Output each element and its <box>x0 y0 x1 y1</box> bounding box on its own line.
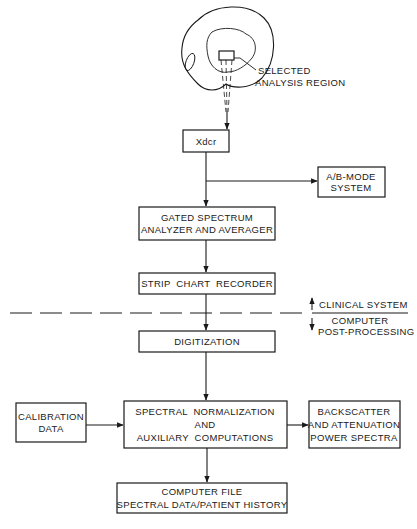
node-computer-file: COMPUTER FILE SPECTRAL DATA/PATIENT HIST… <box>117 483 288 513</box>
normalization-label-line1: SPECTRAL NORMALIZATION <box>135 406 274 417</box>
computer-label: COMPUTER <box>332 315 389 326</box>
ab-mode-label-line1: A/B-MODE <box>326 171 375 182</box>
gated-label-line2: ANALYZER AND AVERAGER <box>141 224 273 235</box>
gated-label-line1: GATED SPECTRUM <box>161 212 253 223</box>
node-calibration-data: CALIBRATION DATA <box>16 403 86 442</box>
backscatter-label-line3: POWER SPECTRA <box>310 432 398 443</box>
analysis-region-box <box>219 51 234 60</box>
calibration-label-line2: DATA <box>38 423 63 434</box>
node-spectral-normalization: SPECTRAL NORMALIZATION AND AUXILIARY COM… <box>124 401 287 448</box>
node-xdcr: Xdcr <box>183 130 229 152</box>
calibration-label-line1: CALIBRATION <box>18 411 84 422</box>
backscatter-label-line1: BACKSCATTER <box>318 406 391 417</box>
node-gated-spectrum-analyzer: GATED SPECTRUM ANALYZER AND AVERAGER <box>139 207 275 240</box>
strip-label: STRIP CHART RECORDER <box>141 278 273 289</box>
beam-lines-icon <box>221 60 232 112</box>
flow-diagram: SELECTED ANALYSIS REGION Xdcr A/B-MODE S… <box>0 0 417 529</box>
node-strip-chart-recorder: STRIP CHART RECORDER <box>139 273 275 294</box>
organ-outline-icon <box>207 28 256 72</box>
kidney-outline-icon <box>183 52 197 72</box>
xdcr-label: Xdcr <box>196 136 217 147</box>
backscatter-label-line2: AND ATTENUATION <box>308 419 400 430</box>
region-label-line1: SELECTED <box>258 65 311 76</box>
computer-file-label-line1: COMPUTER FILE <box>162 486 243 497</box>
computer-file-label-line2: SPECTRAL DATA/PATIENT HISTORY <box>117 499 288 510</box>
anatomy-illustration: SELECTED ANALYSIS REGION <box>182 7 346 112</box>
clinical-system-label: CLINICAL SYSTEM <box>319 299 408 310</box>
post-processing-label: POST-PROCESSING <box>318 326 414 337</box>
region-leader-line <box>234 58 256 70</box>
digitization-label: DIGITIZATION <box>174 336 240 347</box>
normalization-label-line2: AND <box>195 419 216 430</box>
region-label-line2: ANALYSIS REGION <box>255 77 345 88</box>
normalization-label-line3: AUXILIARY COMPUTATIONS <box>137 432 274 443</box>
ab-mode-label-line2: SYSTEM <box>331 182 372 193</box>
node-backscatter-power-spectra: BACKSCATTER AND ATTENUATION POWER SPECTR… <box>308 401 400 448</box>
node-digitization: DIGITIZATION <box>139 331 275 352</box>
node-ab-mode-system: A/B-MODE SYSTEM <box>318 167 385 197</box>
